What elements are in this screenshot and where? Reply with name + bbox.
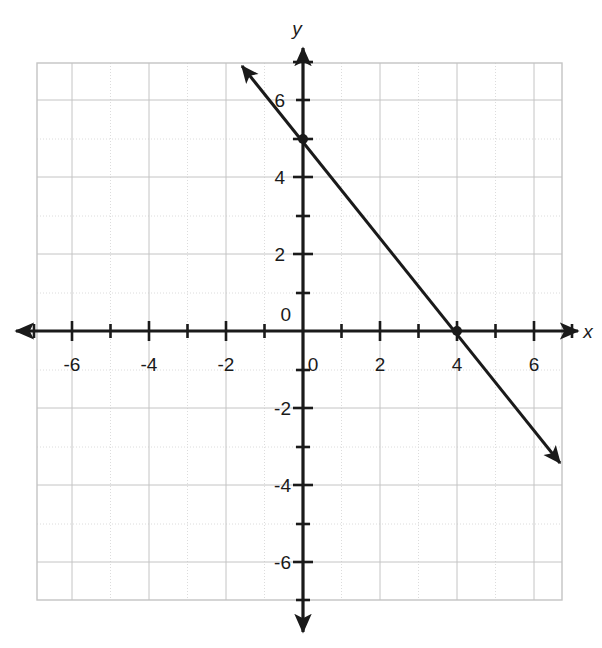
coordinate-plane-graph: -6 -4 -2 0 2 4 6 6 4 2 0 -2 -4 -6 x y: [0, 0, 602, 648]
y-tick-label-4: 4: [274, 167, 285, 188]
y-tick-label-2: 2: [274, 244, 285, 265]
y-tick-label-6: 6: [274, 90, 285, 111]
y-tick-label--6: -6: [274, 552, 291, 573]
x-tick-label--2: -2: [218, 354, 235, 375]
x-tick-label-0: 0: [308, 354, 319, 375]
x-tick-label-6: 6: [529, 354, 540, 375]
y-tick-label--4: -4: [274, 475, 291, 496]
x-intercept-point: [452, 326, 462, 336]
y-tick-label-0: 0: [280, 304, 291, 325]
x-tick-label-4: 4: [452, 354, 463, 375]
x-axis-label: x: [582, 321, 594, 342]
x-tick-label--6: -6: [64, 354, 81, 375]
graph-canvas: -6 -4 -2 0 2 4 6 6 4 2 0 -2 -4 -6 x y: [0, 0, 602, 648]
y-tick-label--2: -2: [274, 398, 291, 419]
x-tick-label--4: -4: [141, 354, 158, 375]
x-tick-label-2: 2: [375, 354, 386, 375]
y-axis-label: y: [290, 18, 303, 39]
y-intercept-point: [298, 134, 308, 144]
